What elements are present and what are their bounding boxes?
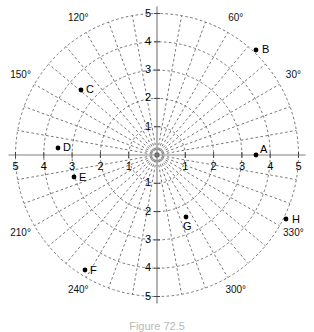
angle-label-240deg: 240° [68,285,89,295]
angle-label-60deg: 60° [228,13,243,23]
y-tick-label-bottom-2: 2 [145,206,151,217]
grid-spoke-40deg [157,64,265,155]
y-tick-label-top-4: 4 [145,36,151,47]
x-tick-label-left-5: 5 [13,161,19,172]
angle-label-210deg: 210° [10,228,31,238]
x-tick-label-left-2: 2 [97,161,103,172]
point-label-E: E [79,172,86,183]
angle-label-330deg: 330° [283,228,304,238]
x-tick-label-right-1: 1 [182,161,188,172]
grid-spoke-80deg [157,16,182,155]
y-tick-label-top-2: 2 [145,92,151,103]
point-label-B: B [262,44,269,55]
data-point-F[interactable] [83,268,88,273]
data-point-G[interactable] [184,215,189,220]
x-tick-label-left-1: 1 [126,161,132,172]
grid-spoke-10deg [157,130,296,155]
grid-spoke-310deg [157,155,248,263]
data-point-A[interactable] [254,153,259,158]
point-label-G: G [183,221,192,232]
grid-spoke-170deg [18,130,157,155]
y-tick-label-top-3: 3 [145,64,151,75]
grid-spoke-130deg [66,47,157,155]
x-tick-label-right-5: 5 [296,161,302,172]
axes-group [9,7,306,304]
x-tick-label-right-2: 2 [211,161,217,172]
data-point-C[interactable] [79,88,84,93]
data-point-D[interactable] [56,146,61,151]
data-point-B[interactable] [254,48,259,53]
data-point-E[interactable] [72,175,77,180]
grid-spoke-190deg [18,155,157,180]
x-tick-label-right-3: 3 [239,161,245,172]
angle-label-150deg: 150° [10,70,31,80]
data-point-H[interactable] [284,217,289,222]
y-tick-label-bottom-5: 5 [145,291,151,302]
y-tick-label-top-1: 1 [145,121,151,132]
figure-caption: Figure 72.5 [0,320,314,332]
point-label-H: H [292,214,300,225]
grid-spoke-50deg [157,47,248,155]
x-tick-label-left-3: 3 [69,161,75,172]
angle-label-30deg: 30° [286,70,301,80]
point-label-D: D [63,142,71,153]
grid-spoke-280deg [157,155,182,294]
x-tick-label-left-4: 4 [41,161,47,172]
point-label-F: F [90,265,97,276]
y-tick-label-bottom-3: 3 [145,234,151,245]
y-tick-label-bottom-4: 4 [145,262,151,273]
angle-label-120deg: 120° [68,13,89,23]
y-tick-label-top-5: 5 [145,8,151,19]
grid-spoke-350deg [157,155,296,180]
point-label-C: C [86,84,94,95]
x-tick-label-right-4: 4 [267,161,273,172]
y-tick-label-bottom-1: 1 [145,177,151,188]
point-label-A: A [260,144,267,155]
angle-label-300deg: 300° [225,285,246,295]
